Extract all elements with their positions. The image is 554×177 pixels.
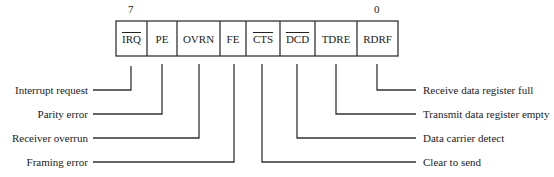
bit-fe: FE <box>220 21 246 56</box>
bit-cts: CTS <box>246 21 280 56</box>
label-parity-error: Parity error <box>38 108 88 120</box>
label-clear-to-send: Clear to send <box>423 156 481 168</box>
label-receiver-overrun: Receiver overrun <box>12 132 88 144</box>
label-interrupt-request: Interrupt request <box>15 84 88 96</box>
bit-pe: PE <box>147 21 177 56</box>
bit-number-msb: 7 <box>128 3 134 15</box>
bit-dcd: DCD <box>280 21 315 56</box>
bit-tdre: TDRE <box>315 21 357 56</box>
label-data-carrier-detect: Data carrier detect <box>423 132 504 144</box>
label-transmit-data-register-empty: Transmit data register empty <box>423 108 549 120</box>
bit-number-lsb: 0 <box>374 3 380 15</box>
label-receive-data-register-full: Receive data register full <box>423 84 533 96</box>
bit-irq: IRQ <box>116 21 147 56</box>
bit-rdrf: RDRF <box>357 21 398 56</box>
label-framing-error: Framing error <box>27 156 88 168</box>
bit-ovrn: OVRN <box>177 21 220 56</box>
